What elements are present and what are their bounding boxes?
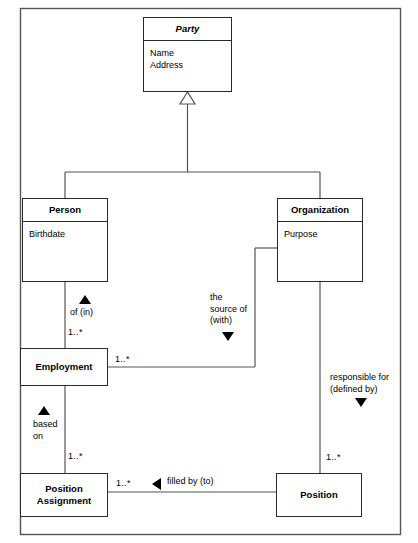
attribute-address: Address <box>150 59 231 71</box>
class-box-party[interactable]: Party Name Address <box>143 17 232 92</box>
attribute-birthdate: Birthdate <box>29 228 107 240</box>
edge-label-line-1: the <box>210 292 247 304</box>
class-title-position: Position <box>277 489 361 501</box>
direction-triangle-left-filled-by <box>152 478 161 490</box>
class-title-position-assignment: Position Assignment <box>21 483 107 507</box>
multiplicity-position-assignment-position: 1..* <box>116 478 131 488</box>
class-box-employment[interactable]: Employment <box>20 348 108 386</box>
class-box-position-assignment[interactable]: Position Assignment <box>20 473 108 517</box>
multiplicity-person-employment: 1..* <box>68 327 83 337</box>
edge-label-filled-by: filled by (to) <box>167 476 214 488</box>
edge-label-line-2: source of <box>210 304 247 316</box>
multiplicity-employment-organization: 1..* <box>115 354 130 364</box>
multiplicity-employment-position-assignment: 1..* <box>68 451 83 461</box>
edge-label-line-1: based <box>33 419 58 431</box>
direction-triangle-down-responsible-for <box>355 398 367 407</box>
edge-label-based-on: based on <box>33 419 58 442</box>
edge-label-line-2: (defined by) <box>330 384 389 396</box>
attribute-name: Name <box>150 47 231 59</box>
class-title-organization: Organization <box>278 199 362 222</box>
class-attributes-person: Birthdate <box>23 222 107 240</box>
class-title-employment: Employment <box>21 361 107 373</box>
class-box-person[interactable]: Person Birthdate <box>22 198 108 282</box>
class-attributes-organization: Purpose <box>278 222 362 240</box>
direction-triangle-down-the-source-of <box>222 332 234 341</box>
class-box-position[interactable]: Position <box>276 473 362 517</box>
class-attributes-party: Name Address <box>144 41 231 71</box>
attribute-purpose: Purpose <box>284 228 362 240</box>
direction-triangle-up-of-in <box>79 295 91 304</box>
edge-label-line-1: responsible for <box>330 372 389 384</box>
class-box-organization[interactable]: Organization Purpose <box>277 198 363 282</box>
edge-label-line-3: (with) <box>210 315 247 327</box>
class-title-person: Person <box>23 199 107 222</box>
edge-label-the-source-of: the source of (with) <box>210 292 247 327</box>
edge-label-responsible-for: responsible for (defined by) <box>330 372 389 395</box>
direction-triangle-up-based-on <box>38 406 50 415</box>
edge-label-of-in: of (in) <box>70 307 93 319</box>
multiplicity-organization-position: 1..* <box>326 452 341 462</box>
class-title-party: Party <box>144 18 231 41</box>
edge-label-line-2: on <box>33 431 58 443</box>
uml-class-diagram: Party Name Address Person Birthdate Orga… <box>0 0 418 543</box>
generalization-triangle-icon <box>180 92 195 104</box>
